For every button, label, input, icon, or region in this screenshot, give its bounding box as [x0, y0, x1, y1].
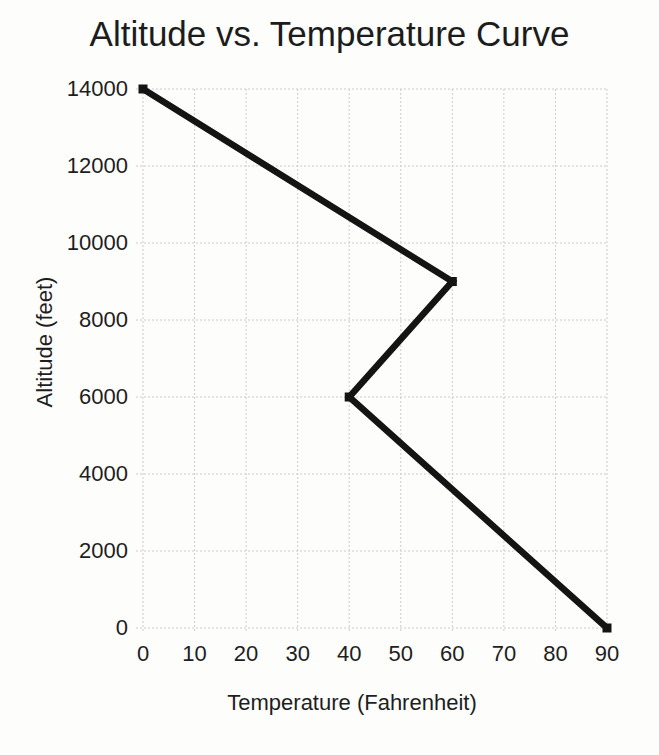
x-tick-label: 90: [595, 641, 619, 666]
x-tick-label: 0: [137, 641, 149, 666]
y-tick-label: 12000: [67, 153, 128, 178]
x-tick-label: 50: [389, 641, 413, 666]
x-tick-label: 60: [440, 641, 464, 666]
x-tick-label: 30: [285, 641, 309, 666]
x-axis-label: Temperature (Fahrenheit): [227, 690, 476, 716]
x-tick-label: 20: [234, 641, 258, 666]
altitude-temperature-chart: Altitude vs. Temperature Curve Altitude …: [0, 0, 659, 755]
y-tick-label: 14000: [67, 76, 128, 101]
y-tick-label: 10000: [67, 230, 128, 255]
y-tick-label: 4000: [79, 461, 128, 486]
data-line: [143, 89, 607, 628]
y-tick-label: 6000: [79, 384, 128, 409]
x-tick-label: 70: [492, 641, 516, 666]
y-tick-label: 0: [116, 615, 128, 640]
data-point-marker: [139, 85, 148, 94]
y-tick-label: 8000: [79, 307, 128, 332]
data-point-marker: [448, 277, 457, 286]
x-tick-label: 80: [543, 641, 567, 666]
line-chart-canvas: 0102030405060708090020004000600080001000…: [0, 0, 659, 755]
data-point-marker: [345, 393, 354, 402]
y-tick-label: 2000: [79, 538, 128, 563]
data-point-marker: [603, 624, 612, 633]
x-tick-label: 40: [337, 641, 361, 666]
x-tick-label: 10: [182, 641, 206, 666]
